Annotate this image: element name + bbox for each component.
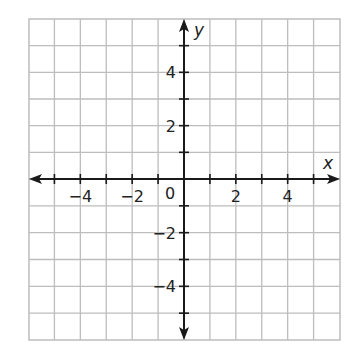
origin-label: 0 bbox=[165, 184, 175, 203]
y-tick-label: −4 bbox=[152, 277, 176, 296]
x-tick-label: 4 bbox=[283, 187, 293, 206]
axes bbox=[29, 19, 340, 340]
x-tick-label: −2 bbox=[120, 187, 144, 206]
y-axis-label: y bbox=[193, 20, 205, 40]
x-axis-label: x bbox=[322, 153, 334, 173]
x-tick-label: −4 bbox=[69, 187, 93, 206]
x-tick-label: 2 bbox=[231, 187, 241, 206]
y-tick-label: −2 bbox=[152, 224, 176, 243]
y-tick-label: 2 bbox=[166, 117, 176, 136]
coordinate-plane: −4−22442−2−4 y x 0 bbox=[0, 0, 362, 354]
y-tick-label: 4 bbox=[166, 63, 176, 82]
